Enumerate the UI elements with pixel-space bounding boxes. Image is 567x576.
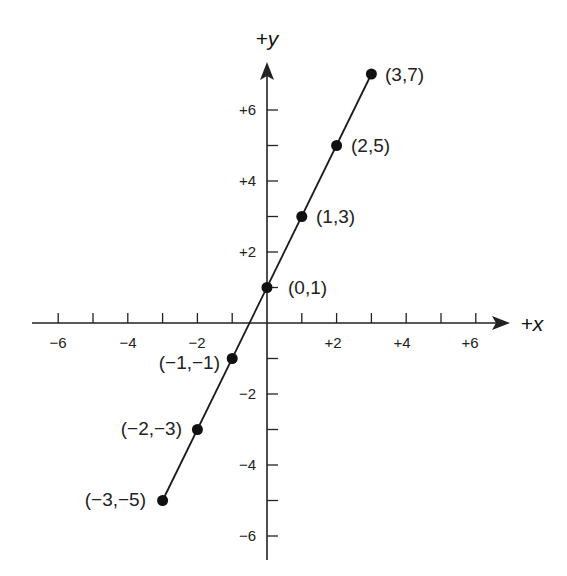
coordinate-plane: −6 −4 −2 +2 +4 +6 +6 +4 +2 −2 −4 −6 +x +… [0,0,567,576]
point-label: (2,5) [351,135,390,156]
data-point [192,424,203,435]
y-tick-label: −4 [239,456,256,473]
point-label: (−2,−3) [121,418,182,439]
y-tick-label: +4 [239,172,256,189]
x-tick-label: +6 [461,334,478,351]
point-label: (−3,−5) [85,489,146,510]
y-tick-label: +2 [239,243,256,260]
y-axis-label: +y [256,27,280,50]
data-point [366,69,377,80]
data-point [262,282,273,293]
x-tick-label: −2 [188,334,205,351]
data-point [296,211,307,222]
point-label: (1,3) [316,206,355,227]
data-point [227,353,238,364]
data-point [157,495,168,506]
point-label: (0,1) [288,277,327,298]
point-label: (−1,−1) [159,352,220,373]
y-axis [260,62,274,560]
x-axis [32,316,510,330]
data-point [331,140,342,151]
x-tick-label: +4 [393,334,410,351]
x-axis-label: +x [521,312,545,335]
y-tick-label: −6 [239,527,256,544]
y-tick-label: −2 [239,385,256,402]
x-tick-label: +2 [324,334,341,351]
x-tick-label: −4 [119,334,136,351]
x-tick-label: −6 [49,334,66,351]
point-label: (3,7) [385,64,424,85]
y-tick-label: +6 [239,101,256,118]
